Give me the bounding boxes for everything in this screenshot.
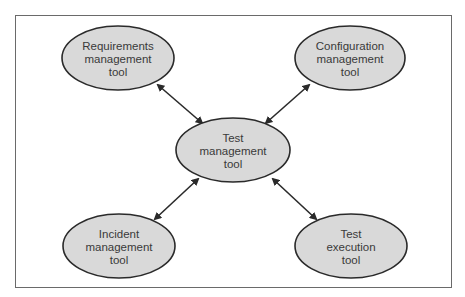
node-label-line: tool [110,254,129,266]
node-label-line: Test [340,228,362,240]
node-label-line: tool [342,254,361,266]
node-label-line: Configuration [316,40,384,52]
node-test-execution-tool: Test execution tool [295,214,407,278]
tool-relationship-diagram: Requirements management tool Configurati… [0,0,465,297]
node-label-line: tool [341,66,360,78]
node-label-line: Test [222,132,244,144]
edge-incident-center [155,179,198,219]
edge-execution-center [273,179,316,219]
node-label-line: Incident [99,228,140,240]
node-test-management-tool: Test management tool [176,118,290,182]
node-label-line: management [85,241,153,253]
node-label-line: management [199,145,267,157]
node-incident-management-tool: Incident management tool [63,214,175,278]
node-label-line: tool [224,158,243,170]
node-label-line: management [84,53,152,65]
node-label-line: tool [109,66,128,78]
node-label-line: Requirements [82,40,154,52]
edge-configuration-center [266,85,309,123]
node-configuration-management-tool: Configuration management tool [295,26,405,90]
node-label-line: execution [326,241,375,253]
node-label-line: management [316,53,384,65]
node-requirements-management-tool: Requirements management tool [62,26,174,90]
edge-requirements-center [158,85,202,123]
